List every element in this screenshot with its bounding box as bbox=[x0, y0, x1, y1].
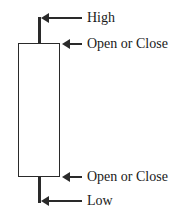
open-close-top-label: Open or Close bbox=[87, 37, 168, 51]
candle-body bbox=[18, 43, 60, 177]
high-arrow-icon bbox=[47, 17, 82, 19]
high-label: High bbox=[87, 11, 115, 25]
low-label: Low bbox=[87, 194, 113, 208]
open-close-bottom-arrow-icon bbox=[68, 176, 82, 178]
open-close-bottom-label: Open or Close bbox=[87, 170, 168, 184]
low-arrow-icon bbox=[47, 200, 82, 202]
open-close-top-arrow-icon bbox=[68, 43, 82, 45]
